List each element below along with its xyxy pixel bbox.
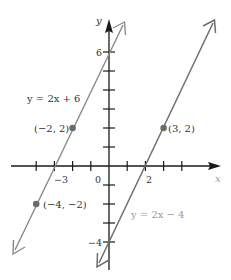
point-neg4-neg2: [33, 201, 40, 208]
y-tick-label-neg4: −4: [88, 237, 102, 248]
coordinate-plane-figure: y x 0 −3 2 6 −4 y = 2x + 6 y = 2x − 4 (−…: [0, 0, 231, 280]
point-label-neg4-neg2: (−4, −2): [43, 199, 87, 210]
x-axis-label: x: [215, 173, 221, 184]
equation-label-upper: y = 2x + 6: [26, 93, 81, 104]
point-neg2-2: [69, 125, 76, 132]
y-tick-label-6: 6: [96, 47, 102, 58]
origin-label: 0: [95, 174, 101, 185]
point-label-neg2-2: (−2, 2): [34, 123, 69, 134]
x-tick-label-neg3: −3: [54, 174, 68, 185]
point-label-3-2: (3, 2): [168, 123, 195, 134]
y-axis-arrow-icon: [105, 19, 113, 33]
equation-label-lower: y = 2x − 4: [130, 209, 185, 220]
line-y-2x-minus-4: [97, 20, 216, 267]
x-tick-label-2: 2: [146, 174, 152, 185]
graph-svg: y x 0 −3 2 6 −4 y = 2x + 6 y = 2x − 4 (−…: [0, 0, 231, 280]
y-axis-label: y: [95, 15, 102, 26]
x-axis: [11, 161, 221, 171]
point-3-2: [160, 125, 167, 132]
